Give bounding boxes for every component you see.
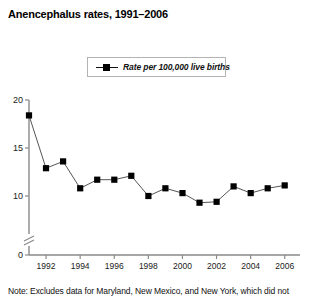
x-tick-label: 1994 [71, 261, 90, 270]
x-tick-label: 1998 [139, 261, 158, 270]
x-tick-label: 2002 [207, 261, 226, 270]
data-point-marker [77, 185, 83, 191]
line-chart: 010152019921994199619982000200220042006 [0, 0, 309, 270]
x-tick-label: 2006 [275, 261, 294, 270]
chart-canvas: 010152019921994199619982000200220042006 [0, 0, 309, 270]
data-point-marker [248, 190, 254, 196]
y-tick-label: 15 [13, 143, 23, 153]
data-point-marker [265, 185, 271, 191]
y-tick-label: 20 [13, 95, 23, 105]
y-tick-label: 0 [18, 250, 23, 260]
x-tick-label: 1992 [37, 261, 56, 270]
data-series [26, 112, 288, 206]
data-point-marker [43, 165, 49, 171]
data-point-marker [26, 112, 32, 118]
data-point-marker [282, 182, 288, 188]
data-point-marker [196, 200, 202, 206]
y-tick-label: 10 [13, 191, 23, 201]
data-point-marker [145, 193, 151, 199]
data-point-marker [179, 190, 185, 196]
tick-labels: 010152019921994199619982000200220042006 [13, 95, 294, 270]
data-point-marker [128, 173, 134, 179]
chart-note: Note: Excludes data for Maryland, New Me… [8, 286, 289, 296]
data-point-marker [231, 183, 237, 189]
data-point-marker [214, 199, 220, 205]
data-point-marker [94, 177, 100, 183]
chart-axes [24, 100, 300, 259]
series-line [29, 115, 285, 202]
x-tick-label: 2000 [173, 261, 192, 270]
data-point-marker [111, 177, 117, 183]
x-tick-label: 1996 [105, 261, 124, 270]
x-tick-label: 2004 [241, 261, 260, 270]
data-point-marker [162, 185, 168, 191]
data-point-marker [60, 158, 66, 164]
